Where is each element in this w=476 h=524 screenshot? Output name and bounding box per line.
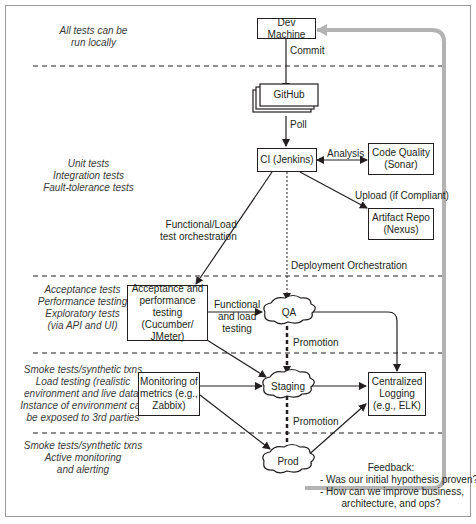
monitoring-node: Monitoring of metrics (e.g., Zabbix) (138, 372, 200, 416)
edge-label-poll: Poll (290, 119, 307, 131)
edge-label-analysis: Analysis (327, 148, 364, 160)
edge-label-commit: Commit (290, 45, 324, 57)
prod-node-label: Prod (265, 456, 311, 468)
dev-machine-node: Dev Machine (257, 18, 316, 39)
edge-label-promotion-staging-prod: Promotion (293, 416, 339, 428)
tier-note-staging: Smoke tests/synthetic txns Load testing … (18, 364, 148, 424)
code-quality-node: Code Quality(Sonar) (368, 143, 434, 175)
edge-label-upload: Upload (if Compliant) (355, 190, 449, 202)
edge-label-func-load-testing: Functional and load testing (214, 299, 260, 335)
ci-jenkins-node: CI (Jenkins) (257, 148, 317, 172)
acceptance-testing-node: Acceptance and performance testing (Cucu… (127, 285, 208, 341)
feedback-note: Feedback: - Was our initial hypothesis p… (320, 462, 462, 510)
artifact-repo-node: Artifact Repo(Nexus) (368, 208, 434, 240)
edge-label-func-load-orch: Functional/Load test orchestration (160, 219, 237, 243)
github-node-label: GitHub (260, 89, 318, 101)
tier-note-ci: Unit tests Integration tests Fault-toler… (31, 158, 146, 194)
edge-label-promotion-qa-staging: Promotion (293, 337, 339, 349)
tier-note-prod: Smoke tests/synthetic txns Active monito… (18, 440, 148, 476)
staging-node-label: Staging (265, 381, 311, 393)
tier-note-local: All tests can be run locally (36, 25, 151, 49)
edge-label-deploy-orch: Deployment Orchestration (291, 260, 407, 272)
qa-node-label: QA (267, 307, 311, 319)
tier-note-qa: Acceptance tests Performance testing Exp… (25, 284, 140, 332)
centralized-logging-node: Centralized Logging (e.g., ELK) (368, 372, 426, 416)
